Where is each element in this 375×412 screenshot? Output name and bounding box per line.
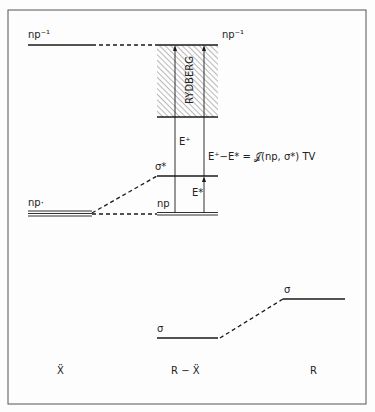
label-np-left: np· [28,197,44,208]
arrowhead-e-star [202,176,206,182]
label-e-star: E* [192,187,203,198]
label-sigma-center: σ [157,323,164,334]
energy-level-diagram: RYDBERG np⁻¹ np⁻¹ σ* np· np E⁺ E* E⁺−E* … [0,0,375,412]
label-np-center: np [157,198,170,209]
column-label-rx: R − Ẍ [171,364,200,376]
label-difference: E⁺−E* = 𝒥(np, σ*) TV [208,151,316,162]
label-np-inverse-left: np⁻¹ [28,29,50,40]
column-label-r: R [310,365,317,376]
rydberg-label: RYDBERG [184,56,195,104]
label-e-plus: E⁺ [179,136,191,147]
connector-np-sigma-star [92,176,157,213]
label-sigma-right: σ [284,284,291,295]
label-np-inverse-right: np⁻¹ [222,29,244,40]
label-sigma-star: σ* [155,161,166,172]
connector-sigma [220,299,283,338]
column-label-x: Ẍ [57,364,64,376]
